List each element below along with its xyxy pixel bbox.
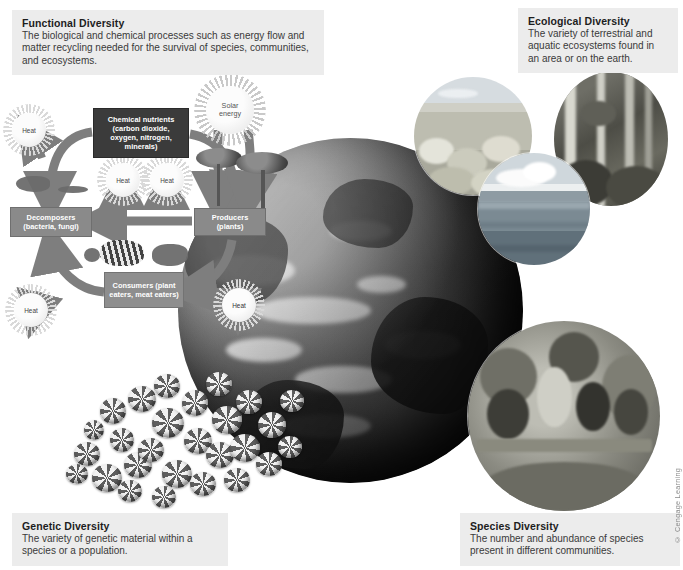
snail-shells-photo <box>66 368 316 506</box>
solar-energy-sun: Solar energy <box>206 86 254 134</box>
heat-burst: Heat <box>12 113 46 147</box>
caption-body: The biological and chemical processes su… <box>22 30 314 67</box>
caption-title: Species Diversity <box>470 520 670 532</box>
heat-burst: Heat <box>150 163 184 197</box>
snail-illustration <box>84 248 100 262</box>
tree-illustration <box>236 152 288 208</box>
decomposers-label: Decomposers (bacteria, fungi) <box>15 213 87 231</box>
ocean-seascape-photo <box>478 153 590 265</box>
heat-burst: Heat <box>106 163 140 197</box>
chemical-nutrients-box: Chemical nutrients (carbon dioxide, oxyg… <box>93 108 189 158</box>
caption-body: The variety of terrestrial and aquatic e… <box>528 28 668 65</box>
heat-burst: Heat <box>222 288 256 322</box>
producers-label: Producers (plants) <box>199 213 261 231</box>
caption-body: The variety of genetic material within a… <box>22 533 218 558</box>
heat-label: Heat <box>232 302 246 309</box>
antelope-illustration <box>152 244 188 266</box>
macaws-on-branch-photo <box>468 321 660 511</box>
consumers-label: Consumers (plant eaters, meat eaters) <box>109 281 179 299</box>
chemical-nutrients-label: Chemical nutrients (carbon dioxide, oxyg… <box>98 115 184 151</box>
caption-ecological-diversity: Ecological Diversity The variety of terr… <box>518 8 678 73</box>
caption-title: Ecological Diversity <box>528 15 668 27</box>
caption-body: The number and abundance of species pres… <box>470 533 670 558</box>
caption-functional-diversity: Functional Diversity The biological and … <box>12 10 324 75</box>
heat-burst: Heat <box>14 293 48 327</box>
heat-label: Heat <box>160 177 174 184</box>
caption-species-diversity: Species Diversity The number and abundan… <box>460 513 680 566</box>
caption-genetic-diversity: Genetic Diversity The variety of genetic… <box>12 513 228 566</box>
worm-illustration <box>58 186 88 193</box>
caption-title: Genetic Diversity <box>22 520 218 532</box>
heat-label: Heat <box>22 127 36 134</box>
copyright-notice: © Cengage Learning <box>673 468 682 544</box>
sun-label-line2: energy <box>219 109 241 118</box>
heat-label: Heat <box>24 307 38 314</box>
caption-title: Functional Diversity <box>22 17 314 29</box>
decomposers-box: Decomposers (bacteria, fungi) <box>10 207 92 237</box>
heat-label: Heat <box>116 177 130 184</box>
consumers-box: Consumers (plant eaters, meat eaters) <box>104 272 184 308</box>
beetle-illustration <box>16 176 50 192</box>
producers-box: Producers (plants) <box>194 208 266 236</box>
zebra-illustration <box>100 240 144 266</box>
